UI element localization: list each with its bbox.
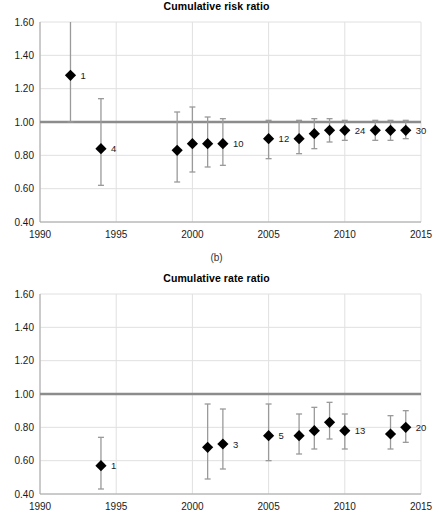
rate-ratio-svg: 0.400.600.801.001.201.401.60199019952000… [0, 272, 433, 520]
data-point-group [385, 416, 396, 449]
y-tick-label: 1.60 [15, 289, 35, 300]
data-point-group: 13 [339, 414, 365, 449]
diamond-marker [324, 417, 335, 428]
diamond-marker [95, 460, 106, 471]
point-count-label: 24 [355, 125, 366, 136]
y-tick-label: 1.60 [15, 17, 35, 28]
data-point-group: 1 [95, 437, 116, 489]
y-tick-label: 0.60 [15, 455, 35, 466]
y-tick-label: 0.80 [15, 150, 35, 161]
x-tick-label: 2015 [410, 501, 433, 512]
x-tick-label: 1990 [29, 501, 52, 512]
plot-area-rate-ratio: 0.400.600.801.001.201.401.60199019952000… [0, 272, 433, 520]
y-tick-label: 1.20 [15, 355, 35, 366]
data-point-group [202, 117, 213, 167]
point-count-label: 3 [233, 439, 238, 450]
data-point-group: 1 [65, 22, 86, 122]
diamond-marker [95, 143, 106, 154]
diamond-marker [400, 125, 411, 136]
point-count-label: 10 [233, 138, 244, 149]
y-tick-label: 1.40 [15, 50, 35, 61]
x-tick-label: 1995 [105, 501, 128, 512]
risk-ratio-svg: 0.400.600.801.001.201.401.60199019952000… [0, 0, 433, 248]
diamond-marker [324, 125, 335, 136]
data-point-group [370, 120, 381, 140]
data-point-group: 20 [400, 411, 426, 443]
y-tick-label: 0.60 [15, 183, 35, 194]
diamond-marker [217, 438, 228, 449]
diamond-marker [202, 442, 213, 453]
x-tick-label: 1990 [29, 229, 52, 240]
point-count-label: 1 [111, 460, 116, 471]
forest-plot-figure: Cumulative risk ratio 0.400.600.801.001.… [0, 0, 433, 520]
diamond-marker [293, 133, 304, 144]
diamond-marker [217, 138, 228, 149]
data-point-group: 10 [217, 119, 243, 166]
point-count-label: 4 [111, 143, 116, 154]
diamond-marker [263, 133, 274, 144]
x-tick-label: 2010 [334, 229, 357, 240]
y-tick-label: 1.20 [15, 83, 35, 94]
data-point-group [293, 120, 304, 153]
data-point-group: 12 [263, 120, 289, 158]
data-point-group [309, 407, 320, 449]
diamond-marker [339, 125, 350, 136]
diamond-marker [339, 425, 350, 436]
diamond-marker [187, 138, 198, 149]
diamond-marker [400, 422, 411, 433]
x-tick-label: 1995 [105, 229, 128, 240]
x-tick-label: 2015 [410, 229, 433, 240]
x-tick-label: 2010 [334, 501, 357, 512]
panel-caption: (b) [0, 252, 433, 263]
data-point-group [324, 402, 335, 439]
point-count-label: 20 [416, 422, 427, 433]
point-count-label: 1 [80, 70, 85, 81]
y-tick-label: 1.40 [15, 322, 35, 333]
x-tick-label: 2000 [181, 229, 204, 240]
y-tick-label: 0.80 [15, 422, 35, 433]
point-count-label: 5 [279, 430, 284, 441]
diamond-marker [385, 125, 396, 136]
plot-area-risk-ratio: 0.400.600.801.001.201.401.60199019952000… [0, 0, 433, 248]
x-tick-label: 2005 [257, 501, 280, 512]
y-tick-label: 1.00 [15, 389, 35, 400]
point-count-label: 13 [355, 425, 366, 436]
data-point-group [293, 414, 304, 454]
diamond-marker [293, 430, 304, 441]
diamond-marker [65, 70, 76, 81]
diamond-marker [309, 128, 320, 139]
data-point-group [187, 107, 198, 172]
data-point-group [202, 404, 213, 479]
x-tick-label: 2000 [181, 501, 204, 512]
point-count-label: 12 [279, 133, 290, 144]
chart-panel-cumulative-rate-ratio: Cumulative rate ratio 0.400.600.801.001.… [0, 272, 433, 520]
y-tick-label: 0.40 [15, 217, 35, 228]
diamond-marker [202, 138, 213, 149]
x-tick-label: 2005 [257, 229, 280, 240]
data-point-group: 4 [95, 99, 116, 186]
y-tick-label: 0.40 [15, 489, 35, 500]
data-point-group: 5 [263, 404, 284, 461]
data-point-group: 24 [339, 120, 365, 140]
diamond-marker [385, 428, 396, 439]
chart-panel-cumulative-risk-ratio: Cumulative risk ratio 0.400.600.801.001.… [0, 0, 433, 248]
diamond-marker [309, 425, 320, 436]
diamond-marker [370, 125, 381, 136]
data-point-group: 3 [217, 409, 238, 469]
point-count-label: 30 [416, 125, 427, 136]
diamond-marker [263, 430, 274, 441]
data-point-group [385, 120, 396, 140]
y-tick-label: 1.00 [15, 117, 35, 128]
diamond-marker [172, 145, 183, 156]
